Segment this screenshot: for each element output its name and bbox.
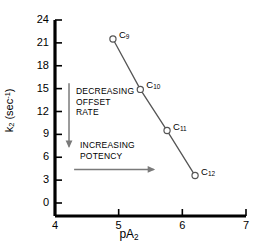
- y-axis-tick-label: 24: [27, 14, 49, 25]
- y-axis-tick-label: 15: [27, 83, 49, 94]
- y-axis-tick-label: 18: [27, 60, 49, 71]
- data-point-marker: [137, 86, 143, 92]
- data-point-label-base: C: [201, 166, 208, 177]
- data-point-label: C9: [119, 30, 129, 42]
- data-point-label: C11: [173, 122, 187, 134]
- y-axis-label-sub: 2: [7, 123, 16, 127]
- chart-figure: k2 (sec-1) pA2 036912151821244567 C9C10C…: [0, 0, 258, 249]
- y-axis-label-base: k: [3, 127, 15, 133]
- y-axis-unit-close: ): [3, 88, 15, 92]
- annotation-arrow-head: [148, 166, 156, 173]
- x-axis-tick-label: 6: [173, 220, 191, 231]
- data-point-label-sub: 11: [180, 125, 187, 132]
- data-point-label-sub: 10: [153, 84, 160, 91]
- data-point-marker: [192, 172, 198, 178]
- annotation-decreasing-offset-rate: DECREASING OFFSET RATE: [76, 86, 134, 118]
- data-point-label-base: C: [173, 121, 180, 132]
- annotation-increasing-potency: INCREASING POTENCY: [80, 140, 135, 161]
- y-axis-tick-label: 3: [27, 174, 49, 185]
- data-point-marker: [164, 127, 170, 133]
- y-axis-unit-open: (sec: [3, 99, 15, 123]
- x-axis-label: pA2: [0, 228, 258, 244]
- data-point-label: C12: [201, 167, 215, 179]
- x-axis-tick-label: 7: [237, 220, 255, 231]
- y-axis-tick-label: 6: [27, 151, 49, 162]
- y-axis-label: k2 (sec-1): [2, 74, 19, 146]
- data-point-label-base: C: [119, 29, 126, 40]
- x-axis-tick-label: 5: [110, 220, 128, 231]
- data-point-label: C10: [146, 80, 160, 92]
- y-axis-tick-label: 21: [27, 37, 49, 48]
- x-axis-tick-label: 4: [46, 220, 64, 231]
- y-axis-unit-exponent: -1: [3, 92, 12, 99]
- y-axis-tick-label: 0: [27, 197, 49, 208]
- x-axis-label-sub: 2: [134, 233, 139, 242]
- data-point-marker: [110, 36, 116, 42]
- annotation-arrow-head: [66, 141, 73, 149]
- y-axis-tick-label: 9: [27, 128, 49, 139]
- y-axis-tick-label: 12: [27, 106, 49, 117]
- axes-group: [55, 20, 246, 216]
- data-point-label-sub: 9: [126, 33, 130, 40]
- data-point-label-sub: 12: [208, 170, 215, 177]
